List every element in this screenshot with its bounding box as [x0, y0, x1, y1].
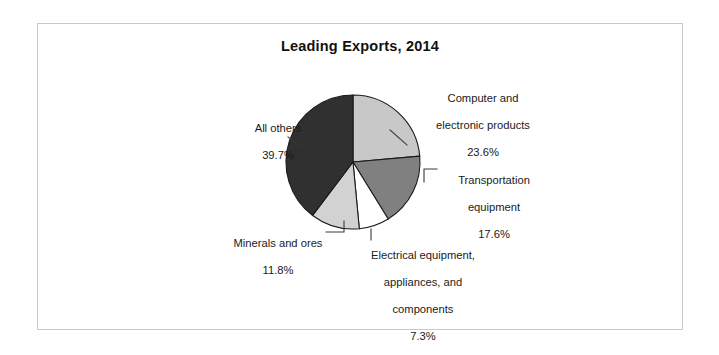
pie-slice-computer-and-electronic-products	[353, 95, 420, 162]
slice-label-minerals-and-ores: Minerals and ores 11.8%	[208, 224, 348, 291]
slice-label-line-1: Computer and	[413, 92, 553, 105]
slice-label-line-1: Electrical equipment,	[338, 249, 508, 262]
slice-label-all-others: All others 39.7%	[218, 109, 338, 176]
slice-label-line-2: appliances, and	[338, 276, 508, 289]
slice-percent-value: 7.3%	[338, 330, 508, 343]
slice-label-computer-and-electronic-products: Computer and electronic products 23.6%	[413, 79, 553, 173]
slice-label-line-2: electronic products	[413, 119, 553, 132]
slice-percent-value: 39.7%	[218, 149, 338, 162]
slice-percent-value: 23.6%	[413, 146, 553, 159]
slice-label-line-1: Transportation	[430, 174, 558, 187]
slice-label-line-1: Minerals and ores	[208, 237, 348, 250]
pie-chart-area: Computer and electronic products 23.6% T…	[38, 24, 684, 331]
slice-label-line-2: equipment	[430, 201, 558, 214]
chart-figure-frame: Leading Exports, 2014 Computer and elect…	[37, 23, 683, 330]
slice-percent-value: 11.8%	[208, 264, 348, 277]
slice-label-line-3: components	[338, 303, 508, 316]
slice-label-line-1: All others	[218, 122, 338, 135]
slice-label-electrical-equipment: Electrical equipment, appliances, and co…	[338, 236, 508, 355]
